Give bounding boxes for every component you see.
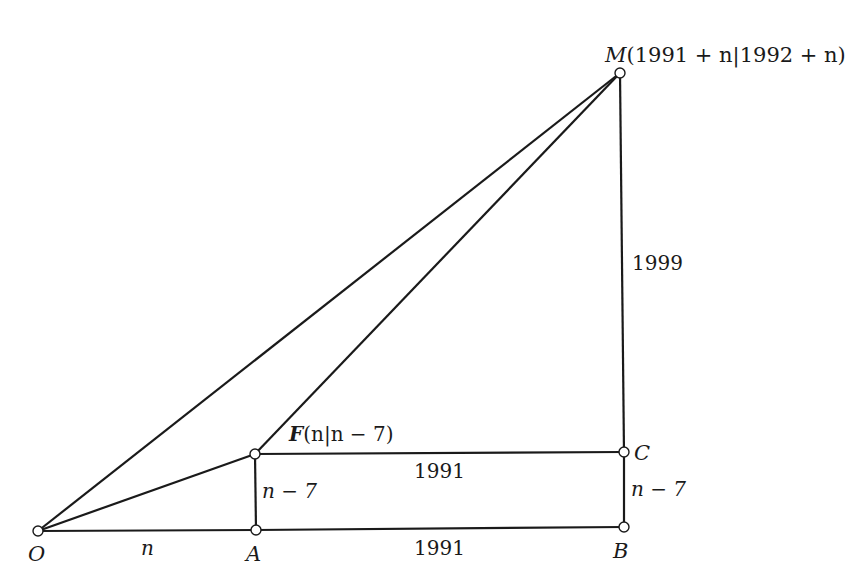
label-F: F(n|n − 7) (288, 422, 394, 447)
point-F (250, 449, 260, 459)
label-M: M(1991 + n|1992 + n) (604, 43, 846, 68)
segment-FM (255, 73, 620, 454)
segment-label-FC: 1991 (414, 459, 465, 483)
segment-AF (255, 454, 256, 530)
segment-label-BC: n − 7 (631, 477, 686, 501)
label-C: C (634, 441, 650, 465)
label-M-coord: (1991 + n|1992 + n) (627, 43, 846, 68)
point-C (619, 447, 629, 457)
point-M (615, 68, 625, 78)
geometry-diagram: O A B C F(n|n − 7) M(1991 + n|1992 + n) … (0, 0, 868, 588)
segment-OM (38, 73, 620, 531)
label-F-coord: (n|n − 7) (303, 422, 393, 447)
point-B (619, 522, 629, 532)
label-M-name: M (604, 43, 627, 67)
segment-OA (38, 530, 256, 531)
segment-FC (255, 452, 624, 454)
segment-OF (38, 454, 255, 531)
point-A (251, 525, 261, 535)
label-O: O (28, 542, 45, 566)
point-O (33, 526, 43, 536)
segment-label-AF: n − 7 (262, 479, 317, 503)
label-A: A (244, 542, 261, 566)
segment-CM (620, 73, 624, 452)
label-B: B (612, 539, 628, 563)
segment-label-OA: n (141, 536, 154, 560)
segment-label-CM: 1999 (632, 251, 683, 275)
segment-label-AB: 1991 (414, 536, 465, 560)
segment-AB (256, 527, 624, 530)
